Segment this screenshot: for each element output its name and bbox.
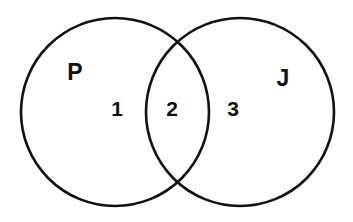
set-label-j: J	[277, 67, 290, 90]
set-label-p: P	[67, 61, 82, 84]
region-count-p-only: 1	[111, 98, 123, 119]
region-count-j-only: 3	[227, 98, 239, 119]
venn-diagram: P J 1 2 3	[0, 0, 353, 222]
region-count-intersection: 2	[166, 98, 178, 119]
